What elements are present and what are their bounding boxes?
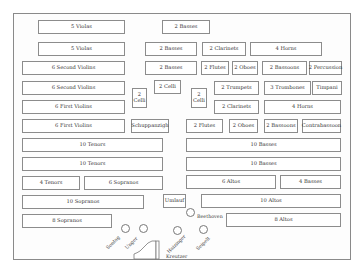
section-4-basses: 4 Basses	[280, 175, 341, 189]
section-10-tenors: 10 Tenors	[22, 157, 163, 171]
seat-unger-icon	[139, 224, 148, 233]
section-2-trumpets: 2 Trumpets	[214, 81, 259, 95]
section-2-percussion: 2 Percussion	[309, 61, 342, 75]
section-10-sopranos: 10 Sopranos	[22, 195, 144, 209]
section-instrument: Celli	[133, 98, 145, 104]
section-2-celli-stacked: 2Celli	[191, 88, 207, 108]
section-2-flutes: 2 Flutes	[201, 61, 229, 75]
section-timpani: Timpani	[312, 81, 342, 95]
section-4-horns: 4 Horns	[250, 42, 322, 56]
section-5-violas: 5 Violas	[38, 42, 125, 56]
section-10-basses: 10 Basses	[186, 138, 341, 152]
section-5-violas: 5 Violas	[38, 20, 125, 34]
section-umlauf: Umlauf	[163, 194, 186, 208]
section-10-altos: 10 Altos	[201, 194, 341, 208]
section-10-tenors: 10 Tenors	[22, 138, 163, 152]
section-6-first-violins: 6 First Violins	[22, 119, 125, 133]
section-2-celli-stacked: 2Celli	[132, 88, 147, 108]
section-instrument: Celli	[193, 98, 205, 104]
section-8-altos: 8 Altos	[226, 213, 341, 227]
seat-beethoven-icon	[186, 208, 195, 217]
section-2-flutes: 2 Flutes	[186, 119, 223, 133]
section-6-altos: 6 Altos	[186, 175, 276, 189]
section-2-basses: 2 Basses	[162, 20, 210, 34]
soloist-name-beethoven: Beethoven	[197, 214, 223, 219]
section-10-basses: 10 Basses	[186, 157, 341, 171]
piano-player-kreutzer: Kreutzer	[166, 254, 187, 259]
section-2-oboes: 2 Oboes	[229, 119, 258, 133]
section-contrabassoon: Contrabassoon	[302, 119, 341, 133]
section-2-clarinets: 2 Clarinets	[214, 100, 259, 114]
section-3-trombones: 3 Trombones	[264, 81, 311, 95]
section-schuppanzigh: Schuppanzigh	[131, 119, 169, 133]
section-6-first-violins: 6 First Violins	[22, 100, 125, 114]
section-2-clarinets: 2 Clarinets	[202, 42, 246, 56]
section-6-sopranos: 6 Sopranos	[84, 176, 163, 190]
section-2-celli: 2 Celli	[154, 80, 181, 94]
seat-sontag-icon	[121, 224, 130, 233]
section-2-bassoons: 2 Bassoons	[262, 61, 307, 75]
section-2-basses: 2 Basses	[145, 61, 197, 75]
section-8-sopranos: 8 Sopranos	[22, 214, 112, 228]
section-6-second-violins: 6 Second Violins	[22, 61, 125, 75]
section-4-tenors: 4 Tenors	[22, 176, 80, 190]
section-2-oboes: 2 Oboes	[232, 61, 258, 75]
section-6-second-violins: 6 Second Violins	[22, 81, 125, 95]
seat-seipelt-icon	[199, 225, 208, 234]
section-4-horns: 4 Horns	[264, 100, 341, 114]
section-2-basses: 2 Basses	[145, 42, 197, 56]
piano-icon	[132, 240, 162, 260]
seat-haizinger-icon	[173, 226, 182, 235]
section-2-bassoons: 2 Bassoons	[264, 119, 298, 133]
